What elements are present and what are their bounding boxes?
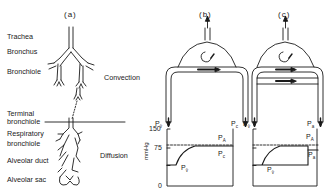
chart-b-label-pv: Pv̄	[181, 164, 188, 173]
alveolus-model-c	[252, 16, 323, 127]
label-diffusion: Diffusion	[100, 152, 128, 160]
chart-b-label-pA: PA	[218, 134, 226, 143]
label-alveolar-sac: Alveolar sac	[7, 176, 46, 184]
panel-label-c: (c)	[278, 10, 290, 19]
respiratory-zone-illustration	[56, 118, 82, 185]
label-trachea: Trachea	[7, 33, 33, 41]
label-pa-c: Pa	[307, 120, 314, 129]
chart-c-label-pA: PA	[306, 133, 314, 142]
label-alveolar-duct: Alveolar duct	[7, 157, 49, 165]
chart-c-label-pa: Pa	[308, 151, 315, 160]
panel-label-a: (a)	[64, 10, 77, 19]
chart-b-label-pc: Pc	[218, 150, 225, 159]
label-respiratory-2: bronchiole	[7, 140, 40, 148]
chart-c-label-pv: Pv̄	[267, 166, 274, 175]
label-terminal-2: bronchiole	[7, 118, 40, 126]
label-pc-b: Pc	[231, 120, 238, 129]
label-convection: Convection	[104, 74, 140, 82]
y-tick-150: 150	[149, 125, 161, 132]
y-axis-label: mmHg	[143, 142, 149, 160]
label-respiratory-1: Respiratory	[7, 130, 44, 138]
panel-label-b: (b)	[199, 10, 212, 19]
diagram-canvas	[0, 0, 330, 193]
label-bronchus: Bronchus	[7, 48, 37, 56]
y-tick-0: 0	[158, 182, 162, 189]
y-tick-75: 75	[154, 144, 162, 151]
label-bronchiole: Bronchiole	[7, 68, 41, 76]
airway-tree-illustration	[48, 27, 94, 119]
alveolus-model-b	[166, 16, 248, 127]
label-pv-c: Pv̄	[243, 120, 250, 129]
